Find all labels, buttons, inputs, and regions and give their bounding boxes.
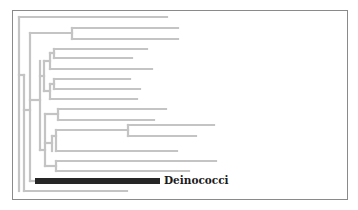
deinococci-branch: [35, 178, 160, 184]
deinococci-label: Deinococci: [164, 174, 229, 186]
tree-figure: Deinococci: [0, 0, 358, 210]
